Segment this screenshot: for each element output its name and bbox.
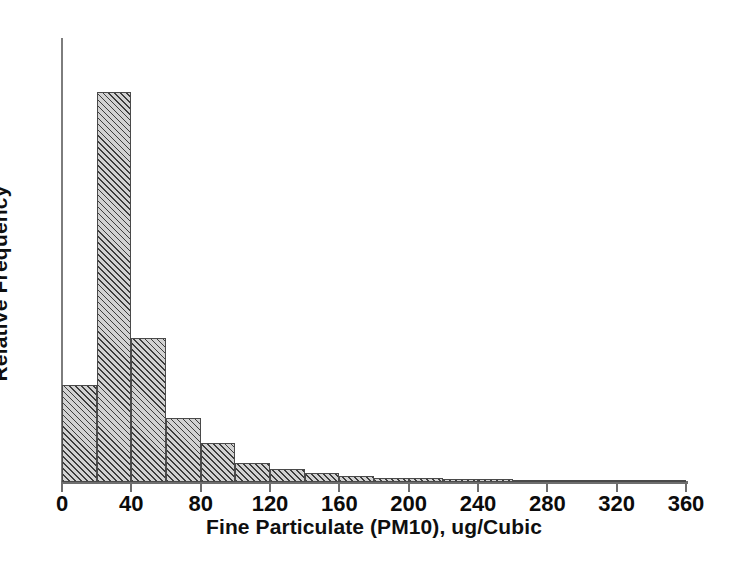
x-tick-label: 360 xyxy=(668,491,705,517)
histogram-bar xyxy=(478,479,513,482)
x-tick-label: 120 xyxy=(252,491,289,517)
histogram-bar xyxy=(617,480,652,483)
x-tick-label: 280 xyxy=(529,491,566,517)
histogram-bar xyxy=(651,480,686,483)
x-axis-title: Fine Particulate (PM10), ug/Cubic xyxy=(62,515,686,539)
histogram-bar xyxy=(62,385,97,482)
histogram-bar xyxy=(582,480,617,483)
x-tick-label: 0 xyxy=(56,491,68,517)
histogram-bar xyxy=(513,480,548,483)
histogram-bar xyxy=(235,463,270,482)
histogram-bar xyxy=(409,478,444,482)
x-tick-label: 160 xyxy=(321,491,358,517)
histogram-bar xyxy=(443,479,478,482)
histogram-bar xyxy=(201,443,236,482)
histogram-bar xyxy=(131,338,166,482)
x-tick-label: 80 xyxy=(188,491,212,517)
x-tick-label: 200 xyxy=(390,491,427,517)
histogram-bar xyxy=(374,478,409,482)
histogram-chart: Relative Frequency 040801201602002402803… xyxy=(0,0,741,567)
histogram-bar xyxy=(270,469,305,482)
x-tick-label: 40 xyxy=(119,491,143,517)
y-axis-title-text: Relative Frequency xyxy=(0,185,12,381)
histogram-bar xyxy=(97,92,132,482)
y-axis-title: Relative Frequency xyxy=(0,0,44,567)
x-tick-label: 240 xyxy=(460,491,497,517)
x-tick-label: 320 xyxy=(598,491,635,517)
histogram-bar xyxy=(547,480,582,483)
histogram-bar xyxy=(305,473,340,482)
histogram-bar xyxy=(166,418,201,482)
histogram-bar xyxy=(339,476,374,482)
